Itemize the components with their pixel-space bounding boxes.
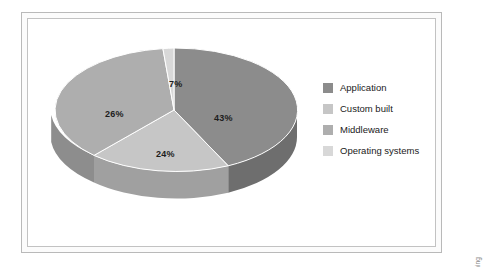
pie-chart-plot-area: 43% 24% 26% 7% Application Custom built [28, 19, 435, 246]
figure-frame-outer: 43% 24% 26% 7% Application Custom built [21, 12, 442, 253]
pie-label-custom-built: 24% [156, 149, 175, 159]
legend-label-application: Application [340, 83, 386, 93]
legend-item-middleware[interactable]: Middleware [323, 119, 448, 140]
legend-item-operating-systems[interactable]: Operating systems [323, 140, 448, 161]
legend-swatch-operating-systems [323, 146, 333, 156]
legend-label-operating-systems: Operating systems [340, 146, 419, 156]
legend-swatch-custom-built [323, 104, 333, 114]
pie-label-application: 43% [214, 113, 233, 123]
legend-swatch-middleware [323, 125, 333, 135]
pie-label-middleware: 26% [105, 109, 124, 119]
figure-container: 43% 24% 26% 7% Application Custom built [0, 0, 484, 267]
figure-frame-inner: 43% 24% 26% 7% Application Custom built [27, 18, 436, 247]
pie-label-operating-systems: 7% [169, 79, 182, 89]
legend-item-application[interactable]: Application [323, 77, 448, 98]
chart-legend: Application Custom built Middleware Oper… [323, 77, 448, 161]
pie-top-face [55, 48, 298, 172]
legend-swatch-application [323, 83, 333, 93]
pie-chart-svg [32, 25, 322, 237]
legend-label-middleware: Middleware [340, 125, 389, 135]
copyright-notice: © 2016 Cengage Learning [474, 257, 481, 267]
legend-label-custom-built: Custom built [340, 104, 393, 114]
legend-item-custom-built[interactable]: Custom built [323, 98, 448, 119]
